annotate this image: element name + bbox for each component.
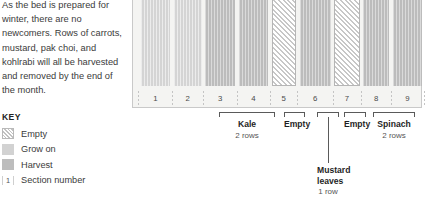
section-number-sample: 1	[6, 176, 10, 185]
bed-section-1	[139, 0, 172, 86]
section-number-6: 6	[297, 88, 332, 108]
bracket-line	[373, 112, 415, 117]
left-column: As the bed is prepared for winter, there…	[0, 0, 132, 200]
narrative-paragraph: As the bed is prepared for winter, there…	[2, 0, 128, 97]
key-item-grow-on: Grow on	[2, 142, 130, 158]
section-number-9: 9	[391, 88, 424, 108]
crop-bracket-labels: Kale2 rowsEmptyMustardleaves1 rowEmptySp…	[132, 112, 422, 200]
bed-sections	[139, 0, 424, 86]
bed-section-8	[361, 0, 391, 86]
key-item-label: Grow on	[21, 144, 56, 154]
bracket-line	[344, 112, 366, 117]
bracket-label: Spinach	[373, 119, 415, 130]
bracket-label: Empty	[344, 119, 366, 130]
bracket-sublabel: 1 row	[317, 187, 339, 197]
bed-section-6	[297, 0, 332, 86]
grow-on-swatch	[2, 144, 14, 155]
bed-band-empty	[272, 0, 296, 86]
bracket-line	[284, 112, 305, 117]
section-number-5: 5	[270, 88, 297, 108]
bracket-sublabel: 2 rows	[219, 131, 275, 141]
key-item-empty: Empty	[2, 126, 130, 142]
key-item-section-number: 1 Section number	[2, 173, 130, 189]
bed-band-harvest	[205, 0, 235, 86]
harvest-swatch	[2, 159, 14, 170]
bracket-sublabel: 2 rows	[373, 131, 415, 141]
section-number-7: 7	[333, 88, 362, 108]
bed-section-4	[237, 0, 270, 86]
bed-band-harvest	[363, 0, 389, 86]
bed-section-2	[172, 0, 203, 86]
bed-band-grow-on	[141, 0, 170, 86]
bracket-label: Kale	[219, 119, 275, 130]
key-item-harvest: Harvest	[2, 157, 130, 173]
section-number-3: 3	[203, 88, 237, 108]
bed-diagram: 123456789	[132, 0, 422, 110]
key-item-label: Section number	[21, 175, 85, 185]
bracket-label: Mustardleaves	[317, 165, 339, 186]
bed-band-empty	[334, 0, 359, 86]
narrative-text: As the bed is prepared for winter, there…	[2, 0, 128, 97]
bracket-leader-line	[328, 117, 329, 163]
bracket-line	[219, 112, 275, 117]
bed-section-9	[391, 0, 424, 86]
bed-section-3	[203, 0, 237, 86]
bed-band-harvest	[239, 0, 268, 86]
key-title: KEY	[2, 112, 130, 122]
bracket-label: Empty	[284, 119, 305, 130]
section-number-1: 1	[139, 88, 172, 108]
bed-section-5	[270, 0, 297, 86]
section-number-8: 8	[361, 88, 391, 108]
bed-section-7	[333, 0, 362, 86]
bed-band-harvest	[300, 0, 331, 86]
bed-band-grow-on	[174, 0, 202, 86]
section-number-4: 4	[237, 88, 270, 108]
section-number-swatch: 1	[2, 175, 14, 186]
section-number-row: 123456789	[139, 88, 424, 108]
key-item-label: Harvest	[21, 160, 53, 170]
section-number-2: 2	[172, 88, 203, 108]
bed-band-harvest	[393, 0, 422, 86]
empty-swatch	[2, 128, 14, 139]
key-legend: KEY Empty Grow on Harvest 1 Section numb…	[2, 112, 130, 188]
key-item-label: Empty	[21, 129, 47, 139]
